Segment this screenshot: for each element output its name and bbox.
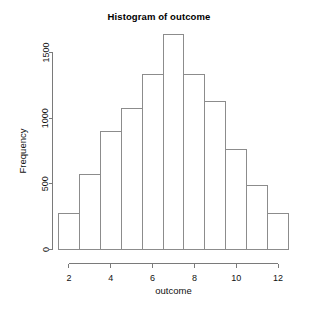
y-axis-tick-label: 0: [41, 247, 51, 252]
histogram-bar: [247, 185, 268, 249]
x-axis-tick-label: 2: [66, 273, 71, 283]
histogram-bar: [268, 213, 289, 249]
x-axis-tick-label: 8: [192, 273, 197, 283]
x-axis-title: outcome: [155, 285, 191, 296]
histogram-bar: [79, 175, 100, 250]
histogram-bar: [226, 149, 247, 249]
y-axis-title: Frequency: [17, 128, 28, 173]
y-axis-tick-label: 500: [41, 176, 51, 191]
histogram-bar: [121, 109, 142, 250]
histogram-bar: [184, 74, 205, 249]
x-axis-tick-label: 6: [150, 273, 155, 283]
histogram-plot: Histogram of outcome 050010001500Frequen…: [0, 0, 318, 311]
y-axis-tick-label: 1500: [41, 42, 51, 62]
x-axis-tick-label: 10: [231, 273, 241, 283]
histogram-bar: [100, 131, 121, 249]
y-axis-tick-label: 1000: [41, 108, 51, 128]
histogram-bar: [142, 74, 163, 249]
histogram-bar: [59, 213, 80, 249]
x-axis-tick-label: 12: [273, 273, 283, 283]
plot-canvas: 050010001500Frequency24681012outcome: [0, 0, 318, 311]
bars-group: [59, 34, 289, 249]
x-axis-tick-label: 4: [108, 273, 113, 283]
histogram-bar: [163, 34, 184, 249]
histogram-bar: [205, 102, 226, 250]
